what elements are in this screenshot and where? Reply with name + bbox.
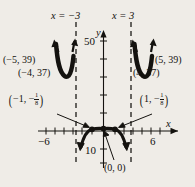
x-axis-letter: x — [166, 119, 171, 130]
y-axis-label-50: 50 — [84, 36, 95, 47]
paren-open-right: ( — [140, 96, 143, 105]
min-left-fraction: 18 — [34, 92, 38, 106]
point-label-min-right: (1, −18) — [139, 92, 169, 106]
curve-left-branch — [51, 38, 78, 76]
point-label-origin: (0, 0) — [104, 163, 126, 173]
point-label-4-37: (4, 37) — [133, 68, 160, 78]
x-axis-label-6: 6 — [150, 136, 156, 147]
asymptote-label-right: x = 3 — [112, 11, 134, 22]
y-axis — [100, 30, 106, 168]
point-label-minus4-37: (−4, 37) — [18, 68, 50, 78]
min-right-x: 1, — [144, 93, 152, 104]
min-left-denominator: 8 — [34, 100, 38, 107]
paren-open-left: ( — [9, 96, 12, 105]
paren-close-left: ) — [40, 96, 43, 105]
min-left-x: −1, — [13, 93, 26, 104]
y-axis-letter: y — [96, 28, 101, 39]
x-axis-label-minus6: −6 — [38, 136, 50, 147]
point-label-min-left: (−1, −18) — [8, 92, 44, 106]
leader-lines — [57, 114, 152, 160]
asymptote-label-left: x = −3 — [51, 11, 80, 22]
point-label-minus5-39: (−5, 39) — [3, 55, 35, 65]
min-right-denominator: 8 — [160, 100, 164, 107]
point-min-right — [112, 126, 118, 132]
min-right-fraction: 18 — [160, 92, 164, 106]
paren-close-right: ) — [165, 96, 168, 105]
y-axis-label-10: 10 — [85, 145, 96, 156]
point-label-5-39: (5, 39) — [155, 55, 182, 65]
